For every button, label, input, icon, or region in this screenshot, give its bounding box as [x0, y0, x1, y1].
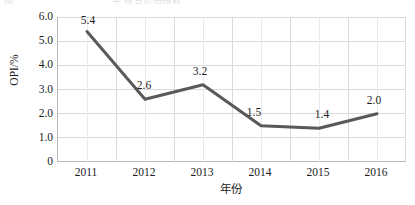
y-axis-tick-label: 1.0 [39, 132, 53, 144]
plot-area [57, 17, 405, 162]
y-axis-tick-label: 3.0 [39, 84, 53, 96]
caption-fragment-right: 年 综合价格指数 [112, 0, 181, 5]
x-axis-tick-label: 2011 [75, 166, 98, 178]
x-axis-tick-label: 2014 [249, 166, 272, 178]
plot-svg [58, 17, 406, 162]
y-axis-tick-label: 0 [47, 156, 53, 168]
x-axis-tick-label: 2012 [133, 166, 156, 178]
x-axis-title: 年份 [57, 183, 405, 196]
x-axis-tick-label: 2016 [365, 166, 388, 178]
y-axis-tick-label: 4.0 [39, 60, 53, 72]
grid-lines [58, 17, 406, 162]
y-axis-tick-label: 5.0 [39, 35, 53, 47]
y-axis-tick-label: 2.0 [39, 108, 53, 120]
x-axis-tick-label: 2015 [307, 166, 330, 178]
x-axis-tick-labels: 201120122013201420152016 [57, 166, 405, 182]
clipped-caption-remnant: 图 年 综合价格指数 [0, 0, 415, 7]
line-chart: 图 年 综合价格指数 OPI/% 01.02.03.04.05.06.0 5.4… [0, 0, 415, 205]
caption-fragment-left: 图 [4, 0, 14, 5]
x-axis-tick-label: 2013 [191, 166, 214, 178]
y-axis-title: OPI/% [8, 40, 20, 100]
y-axis-tick-label: 6.0 [39, 11, 53, 23]
y-axis-tick-labels: 01.02.03.04.05.06.0 [25, 17, 53, 162]
